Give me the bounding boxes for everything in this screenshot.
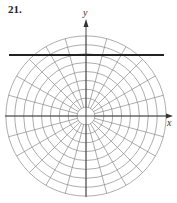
- polar-spoke: [9, 95, 78, 113]
- polar-grid-diagram: x y: [0, 0, 177, 203]
- polar-spoke: [9, 118, 78, 136]
- polar-spoke: [92, 59, 142, 109]
- polar-spoke: [65, 125, 83, 194]
- polar-spoke: [88, 125, 106, 194]
- polar-spoke: [88, 39, 106, 108]
- polar-spoke: [94, 120, 156, 156]
- polar-spoke: [29, 122, 79, 172]
- polar-spoke: [95, 95, 164, 113]
- polar-spoke: [65, 39, 83, 108]
- polar-spoke: [46, 124, 82, 186]
- polar-spoke: [29, 59, 79, 109]
- y-axis-arrow-icon: [84, 19, 89, 27]
- polar-spoke: [17, 120, 79, 156]
- y-axis-label: y: [82, 7, 88, 18]
- polar-spoke: [92, 122, 142, 172]
- polar-spoke: [94, 76, 156, 112]
- polar-spoke: [95, 118, 164, 136]
- polar-spoke: [90, 124, 126, 186]
- x-axis-label: x: [166, 117, 172, 128]
- polar-spoke: [17, 76, 79, 112]
